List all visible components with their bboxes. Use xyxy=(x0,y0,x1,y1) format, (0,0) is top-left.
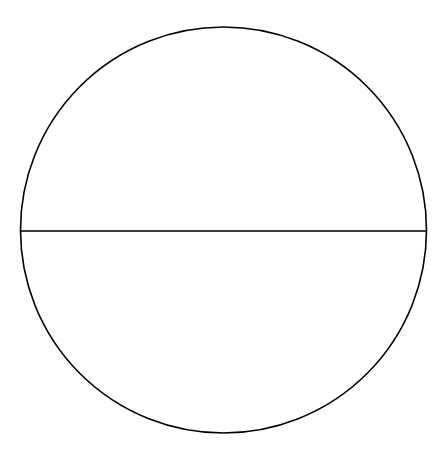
background xyxy=(0,0,441,456)
diagram-canvas xyxy=(0,0,441,456)
